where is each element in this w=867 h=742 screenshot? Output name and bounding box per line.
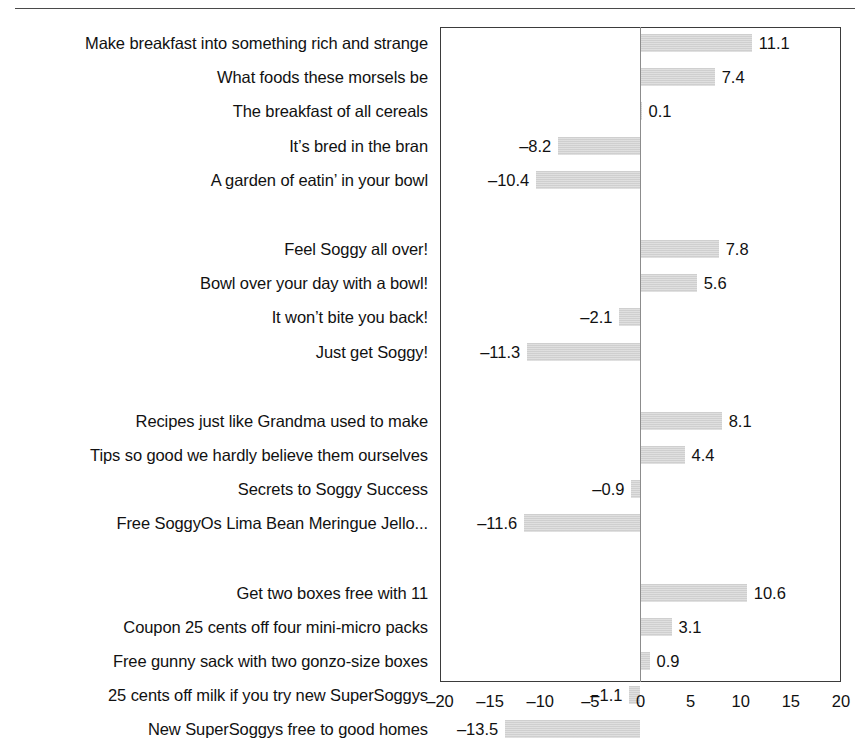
bar [641, 652, 650, 670]
bar-texture [641, 68, 715, 86]
bar-row: Coupon 25 cents off four mini-micro pack… [0, 612, 867, 642]
value-label: 5.6 [704, 268, 727, 298]
value-label: –11.6 [477, 508, 517, 538]
value-label: 0.1 [649, 96, 672, 126]
category-label: Make breakfast into something rich and s… [8, 28, 428, 58]
category-label: Bowl over your day with a bowl! [8, 268, 428, 298]
value-label: 4.4 [692, 440, 715, 470]
category-label: What foods these morsels be [8, 62, 428, 92]
bar-texture [641, 652, 650, 670]
bar [641, 240, 719, 258]
bar-row: It won’t bite you back!–2.1 [0, 302, 867, 332]
bar-row: Tips so good we hardly believe them ours… [0, 440, 867, 470]
bar-texture [619, 308, 640, 326]
value-label: 10.6 [754, 578, 786, 608]
bar [641, 618, 672, 636]
category-label: Get two boxes free with 11 [8, 578, 428, 608]
bar [558, 137, 640, 155]
bar-row: Bowl over your day with a bowl!5.6 [0, 268, 867, 298]
bar-texture [641, 34, 752, 52]
bar-texture [505, 720, 640, 738]
bar-row: The breakfast of all cereals0.1 [0, 96, 867, 126]
bar [641, 102, 642, 120]
bar-row: It’s bred in the bran–8.2 [0, 131, 867, 161]
value-label: –0.9 [592, 474, 624, 504]
bar-texture [641, 274, 697, 292]
category-label: Free SoggyOs Lima Bean Meringue Jello... [8, 508, 428, 538]
category-label: It’s bred in the bran [8, 131, 428, 161]
bar [641, 34, 752, 52]
bar [536, 171, 640, 189]
bar [641, 412, 722, 430]
bar-texture [641, 240, 719, 258]
bar [619, 308, 640, 326]
category-label: Just get Soggy! [8, 337, 428, 367]
bar [641, 68, 715, 86]
bar-row: Free gunny sack with two gonzo-size boxe… [0, 646, 867, 676]
value-label: –11.3 [480, 337, 520, 367]
category-label: Tips so good we hardly believe them ours… [8, 440, 428, 470]
value-label: 8.1 [729, 406, 752, 436]
bar-texture [558, 137, 640, 155]
bar [641, 274, 697, 292]
bar [524, 514, 640, 532]
bar-texture [631, 480, 640, 498]
category-label: Recipes just like Grandma used to make [8, 406, 428, 436]
value-label: 7.8 [726, 234, 749, 264]
bar-texture [536, 171, 640, 189]
value-label: 7.4 [722, 62, 745, 92]
bar-texture [641, 584, 747, 602]
category-label: It won’t bite you back! [8, 302, 428, 332]
x-axis: –20–15–10–505101520 [0, 686, 867, 716]
bar-texture [641, 102, 642, 120]
bar [641, 446, 685, 464]
bar-texture [524, 514, 640, 532]
bar-texture [641, 412, 722, 430]
category-label: A garden of eatin’ in your bowl [8, 165, 428, 195]
bar-texture [641, 446, 685, 464]
bar [641, 584, 747, 602]
bar-texture [527, 343, 640, 361]
value-label: –2.1 [580, 302, 612, 332]
bar-row: New SuperSoggys free to good homes–13.5 [0, 714, 867, 742]
x-tick-label: 20 [811, 686, 867, 716]
value-label: –13.5 [457, 714, 498, 742]
category-label: Coupon 25 cents off four mini-micro pack… [8, 612, 428, 642]
bar-row: Feel Soggy all over!7.8 [0, 234, 867, 264]
category-label: Feel Soggy all over! [8, 234, 428, 264]
category-label: Free gunny sack with two gonzo-size boxe… [8, 646, 428, 676]
bar-row: Get two boxes free with 1110.6 [0, 578, 867, 608]
bar-row: Recipes just like Grandma used to make8.… [0, 406, 867, 436]
bar-texture [641, 618, 672, 636]
category-label: New SuperSoggys free to good homes [8, 714, 428, 742]
category-label: The breakfast of all cereals [8, 96, 428, 126]
value-label: –10.4 [488, 165, 529, 195]
bar-row: A garden of eatin’ in your bowl–10.4 [0, 165, 867, 195]
value-label: –8.2 [519, 131, 551, 161]
value-label: 11.1 [759, 28, 790, 58]
bar-row: Make breakfast into something rich and s… [0, 28, 867, 58]
bar-row: Secrets to Soggy Success–0.9 [0, 474, 867, 504]
bar [505, 720, 640, 738]
bar-row: Free SoggyOs Lima Bean Meringue Jello...… [0, 508, 867, 538]
bar-row: Just get Soggy!–11.3 [0, 337, 867, 367]
bar-row: What foods these morsels be7.4 [0, 62, 867, 92]
category-label: Secrets to Soggy Success [8, 474, 428, 504]
value-label: 3.1 [679, 612, 702, 642]
value-label: 0.9 [657, 646, 680, 676]
bar [527, 343, 640, 361]
bar [631, 480, 640, 498]
